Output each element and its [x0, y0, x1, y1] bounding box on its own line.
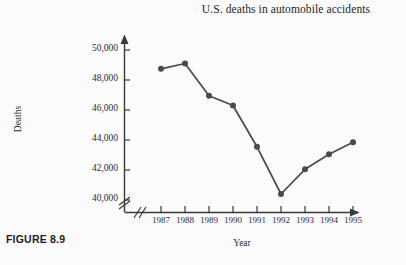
x-axis-tick-label: 1995 — [337, 215, 369, 225]
figure-container: U.S. deaths in automobile accidents FIGU… — [0, 0, 406, 265]
x-axis-ticks — [161, 206, 353, 213]
y-axis-tick-label: 44,000 — [74, 133, 118, 143]
data-point — [302, 166, 308, 172]
data-series-markers — [158, 61, 356, 198]
data-point — [326, 151, 332, 157]
chart-plot-area: Deaths Year 40,00042,00044,00046,00048,0… — [0, 0, 406, 265]
data-point — [158, 66, 164, 72]
y-axis-ticks — [125, 50, 131, 200]
data-point — [206, 93, 212, 99]
data-series-line — [161, 64, 353, 195]
data-point — [350, 139, 356, 145]
line-chart-svg — [0, 0, 406, 265]
data-point — [230, 103, 236, 109]
x-axis-title: Year — [212, 238, 272, 248]
y-axis-title: Deaths — [13, 89, 23, 149]
y-axis-tick-label: 48,000 — [74, 73, 118, 83]
y-axis-tick-label: 42,000 — [74, 163, 118, 173]
data-point — [182, 61, 188, 67]
data-point — [254, 144, 260, 150]
data-point — [278, 191, 284, 197]
y-axis-tick-label: 46,000 — [74, 103, 118, 113]
y-axis-tick-label: 50,000 — [74, 43, 118, 53]
y-axis-tick-label: 40,000 — [74, 193, 118, 203]
